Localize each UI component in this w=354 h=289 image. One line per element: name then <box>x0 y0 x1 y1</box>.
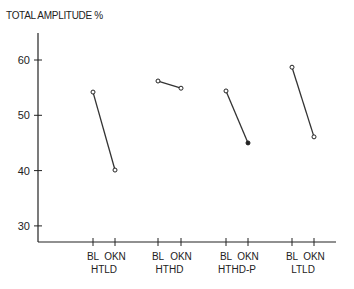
x-group-label: HTHD-P <box>218 264 256 275</box>
y-tick-label: 50 <box>18 109 30 121</box>
x-condition-label: BL <box>286 251 299 262</box>
data-line-hthd <box>158 81 181 88</box>
x-condition-label: OKN <box>303 251 325 262</box>
data-line-hthd-p <box>226 91 248 143</box>
x-condition-label: BL <box>220 251 233 262</box>
x-condition-label: OKN <box>104 251 126 262</box>
y-tick-label: 40 <box>18 165 30 177</box>
data-point-open <box>179 86 183 90</box>
x-group-label: HTLD <box>91 264 117 275</box>
amplitude-chart: 30405060BLOKNHTLDBLOKNHTHDBLOKNHTHD-PBLO… <box>0 0 354 289</box>
x-group-label: LTLD <box>291 264 315 275</box>
x-condition-label: OKN <box>237 251 259 262</box>
data-point-open <box>224 89 228 93</box>
data-point-open <box>290 65 294 69</box>
data-point-open <box>312 135 316 139</box>
data-point-open <box>91 90 95 94</box>
y-tick-label: 30 <box>18 220 30 232</box>
x-condition-label: OKN <box>170 251 192 262</box>
data-line-ltld <box>292 67 314 137</box>
data-line-htld <box>93 92 115 170</box>
data-point-filled <box>246 141 250 145</box>
data-point-open <box>156 79 160 83</box>
x-group-label: HTHD <box>156 264 184 275</box>
data-point-open <box>113 168 117 172</box>
x-condition-label: BL <box>152 251 165 262</box>
x-condition-label: BL <box>87 251 100 262</box>
y-tick-label: 60 <box>18 54 30 66</box>
